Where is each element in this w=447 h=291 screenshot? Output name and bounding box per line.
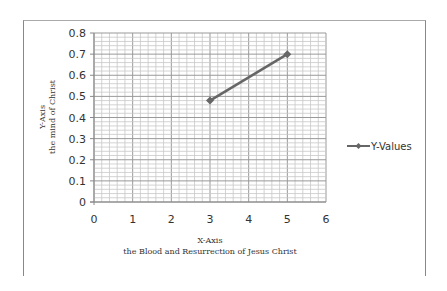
x-tick-label: 2: [168, 213, 175, 226]
x-tick-label: 3: [207, 213, 214, 226]
legend: Y-Values: [347, 141, 412, 152]
x-tick-label: 1: [129, 213, 136, 226]
y-axis-subtitle: the mind of Christ: [48, 79, 57, 154]
legend-diamond-icon: [356, 143, 362, 149]
grid-lines: [90, 33, 326, 205]
y-tick-label: 0.6: [69, 69, 87, 82]
x-axis-ticks: 0123456: [91, 213, 330, 226]
y-tick-label: 0.1: [69, 175, 87, 188]
y-tick-label: 0: [79, 196, 86, 209]
legend-label: Y-Values: [370, 141, 412, 152]
x-tick-label: 5: [284, 213, 291, 226]
x-tick-label: 4: [245, 213, 252, 226]
y-tick-label: 0.5: [69, 90, 87, 103]
y-tick-label: 0.2: [69, 154, 87, 167]
x-tick-label: 0: [91, 213, 98, 226]
y-tick-label: 0.4: [69, 112, 87, 125]
y-axis-ticks: 00.10.20.30.40.50.60.70.8: [69, 27, 95, 209]
y-tick-label: 0.8: [69, 27, 87, 40]
x-axis-title: X-Axis: [197, 236, 222, 245]
x-tick-label: 6: [323, 213, 330, 226]
line-chart: 00.10.20.30.40.50.60.70.8 0123456 X-Axis…: [0, 0, 447, 291]
y-axis-title: Y-Axis: [38, 105, 47, 130]
y-tick-label: 0.3: [69, 133, 87, 146]
x-axis-subtitle: the Blood and Resurrection of Jesus Chri…: [123, 247, 297, 256]
y-tick-label: 0.7: [69, 48, 87, 61]
